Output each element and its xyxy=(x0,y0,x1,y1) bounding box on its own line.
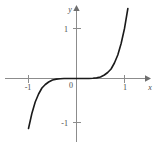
function-curve xyxy=(29,9,128,129)
y-tick-label-pos1: 1 xyxy=(64,25,68,34)
x-tick-label-neg1: -1 xyxy=(25,83,32,92)
function-graph-figure: -1 1 1 -1 0 y x xyxy=(0,0,156,147)
origin-label: 0 xyxy=(69,81,73,90)
y-axis-arrow-icon xyxy=(73,5,79,11)
y-tick-label-neg1: -1 xyxy=(61,119,68,128)
x-axis-label: x xyxy=(147,83,152,92)
x-axis-arrow-icon xyxy=(145,75,151,81)
plot-canvas: -1 1 1 -1 0 y x xyxy=(0,0,156,147)
y-axis-label: y xyxy=(67,5,72,14)
x-tick-label-pos1: 1 xyxy=(123,83,127,92)
